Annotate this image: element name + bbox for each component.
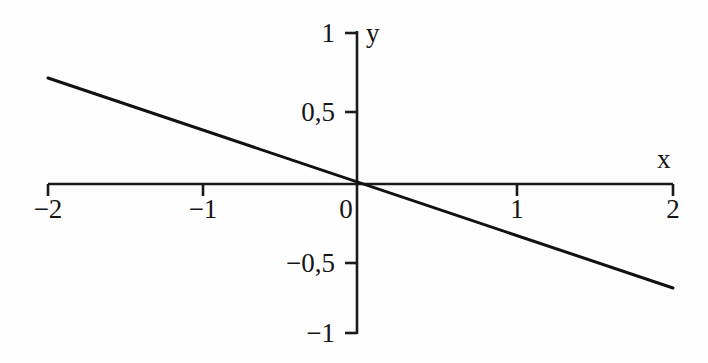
- y-tick-label-1: 1: [255, 20, 335, 47]
- x-tick-label--1: −1: [189, 196, 218, 223]
- x-tick-label-2: 2: [666, 196, 680, 223]
- y-tick-label--0-5: −0,5: [255, 250, 335, 277]
- y-tick-label--1: −1: [255, 320, 335, 347]
- x-tick-label-1: 1: [510, 196, 524, 223]
- y-tick-label-0-5: 0,5: [255, 99, 335, 126]
- x-tick-label-0: 0: [339, 196, 353, 223]
- chart-canvas: [0, 0, 708, 363]
- x-tick-label--2: −2: [34, 196, 63, 223]
- chart-figure: −2 −1 0 1 2 1 0,5 −0,5 −1 y x: [0, 0, 708, 363]
- x-axis-label: x: [657, 146, 671, 173]
- y-axis-label: y: [366, 20, 380, 47]
- x-axis-ticks: [48, 184, 673, 196]
